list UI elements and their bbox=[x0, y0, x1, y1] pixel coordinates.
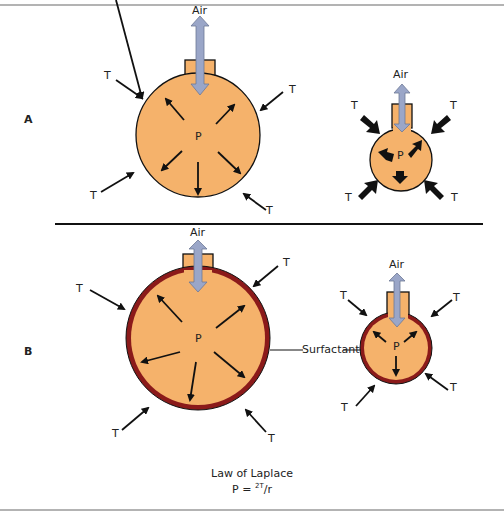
tension-label: T bbox=[283, 257, 290, 268]
tension-label: T bbox=[289, 84, 296, 95]
tension-label: T bbox=[104, 70, 111, 81]
air-label: Air bbox=[393, 69, 408, 80]
tension-label: T bbox=[268, 433, 275, 444]
tension-label: T bbox=[451, 192, 458, 203]
tension-label: T bbox=[76, 283, 83, 294]
pressure-label: P bbox=[195, 333, 202, 344]
panel-label-a: A bbox=[24, 114, 33, 125]
air-label: Air bbox=[192, 5, 207, 16]
tension-label: T bbox=[450, 100, 457, 111]
air-label: Air bbox=[190, 227, 205, 238]
pressure-label: P bbox=[195, 131, 202, 142]
tension-label: T bbox=[345, 192, 352, 203]
laplace-diagram bbox=[0, 0, 504, 516]
tension-label: T bbox=[341, 402, 348, 413]
tension-label: T bbox=[112, 428, 119, 439]
tension-label: T bbox=[351, 100, 358, 111]
pressure-label: P bbox=[393, 341, 400, 352]
surfactant-label: Surfactant bbox=[302, 344, 359, 355]
pressure-label: P bbox=[397, 150, 404, 161]
alveolus-b-small bbox=[348, 273, 452, 406]
tension-label: T bbox=[90, 190, 97, 201]
tension-label: T bbox=[450, 382, 457, 393]
tension-label: T bbox=[453, 292, 460, 303]
formula-numerator: 2T bbox=[255, 482, 264, 490]
tension-label: T bbox=[340, 290, 347, 301]
panel-label-b: B bbox=[24, 346, 32, 357]
air-label: Air bbox=[389, 259, 404, 270]
alveolus-b-large bbox=[90, 240, 278, 432]
alveolus-a-small bbox=[358, 84, 451, 200]
alveolus-a-large bbox=[101, 0, 283, 210]
formula-denominator: /r bbox=[264, 483, 272, 496]
tension-label: T bbox=[266, 205, 273, 216]
caption-title: Law of Laplace bbox=[0, 467, 504, 480]
formula-prefix: P = bbox=[232, 483, 255, 496]
caption-formula: P = 2T/r bbox=[0, 480, 504, 496]
